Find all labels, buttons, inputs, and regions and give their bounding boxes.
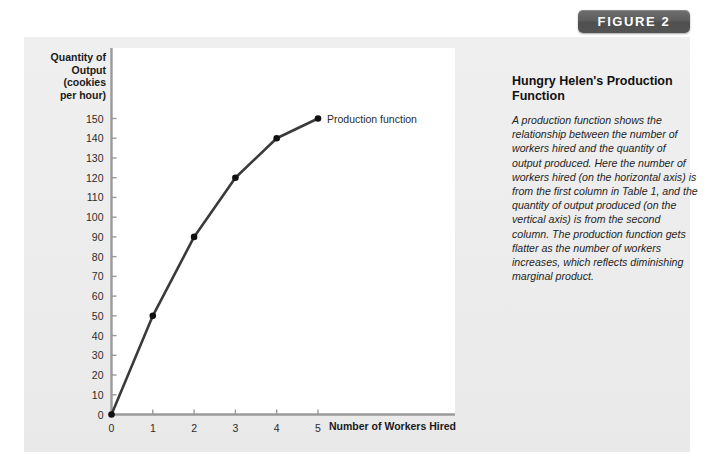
y-tick-label: 30: [74, 350, 104, 360]
series-annotation-production-function: Production function: [327, 113, 417, 125]
x-tick-label: 3: [225, 423, 245, 433]
caption-body: A production function shows the relation…: [512, 113, 698, 283]
x-tick-label: 1: [143, 423, 163, 433]
y-tick-label: 130: [74, 153, 104, 163]
y-tick-label: 60: [74, 291, 104, 301]
y-tick-label: 40: [74, 331, 104, 341]
figure-number-badge: FIGURE 2: [578, 10, 690, 33]
y-axis-title: Quantity of Output (cookies per hour): [20, 51, 106, 101]
y-tick-label: 10: [74, 390, 104, 400]
x-tick-label: 0: [102, 423, 122, 433]
y-tick-label: 90: [74, 232, 104, 242]
y-tick-label: 50: [74, 311, 104, 321]
y-tick-label: 20: [74, 370, 104, 380]
y-tick-label: 0: [74, 410, 104, 420]
caption-panel: Hungry Helen's Production Function A pro…: [512, 74, 698, 283]
y-tick-label: 100: [74, 212, 104, 222]
y-tick-label: 80: [74, 252, 104, 262]
caption-heading: Hungry Helen's Production Function: [512, 74, 698, 104]
x-tick-label: 5: [308, 423, 328, 433]
y-tick-label: 150: [74, 114, 104, 124]
y-tick-label: 110: [74, 192, 104, 202]
y-tick-label: 70: [74, 271, 104, 281]
x-tick-label: 2: [184, 423, 204, 433]
plot-canvas: [111, 48, 455, 415]
y-tick-label: 140: [74, 133, 104, 143]
x-tick-label: 4: [267, 423, 287, 433]
y-tick-label: 120: [74, 173, 104, 183]
x-axis-title: Number of Workers Hired: [329, 420, 456, 432]
